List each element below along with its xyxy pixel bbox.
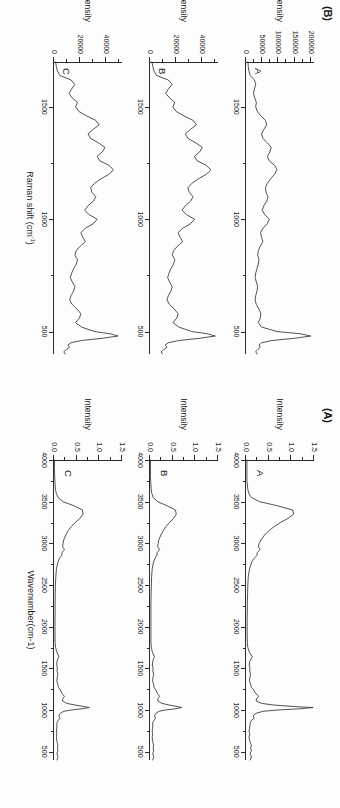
y-tick-label: 0.5 [265,442,272,452]
spectrum-curve-C [56,62,119,354]
x-tick-label: 1000 [41,702,48,718]
figure-stage: (B) 15001000500050000100000150000200000A… [0,0,340,808]
y-tick-label: 1.5 [311,442,318,452]
x-tick-label: 2500 [137,577,144,593]
x-tick-label: 500 [41,326,48,338]
y-tick-label: 1.5 [119,442,126,452]
spectrum-svg-A [244,62,314,354]
subplot-letter-C: C [61,68,72,75]
y-tick-label: 200000 [307,31,314,54]
y-axis-title: Intensity [179,0,189,22]
spectrum-svg-C [52,62,122,354]
spectrum-curve-B [150,460,181,760]
spectrum-svg-A [244,460,314,760]
y-tick-label: 0.5 [73,442,80,452]
x-tick-label: 1000 [233,702,240,718]
spectrum-curve-A [247,460,313,760]
y-tick-label: 40000 [199,35,206,54]
subplot-letter-A: A [253,68,264,74]
spectrum-curve-C [54,460,89,760]
x-tick-label: 500 [41,746,48,758]
x-axis-title: Raman shift (cm-1) [25,171,36,244]
y-tick-label: 20000 [77,35,84,54]
subplot-B: 40003500300025002000150010005000.00.51.0… [150,460,218,760]
y-tick-label: 1.0 [96,442,103,452]
x-tick-label: 1000 [137,702,144,718]
x-tick-label: 3000 [137,536,144,552]
figure-page: (B) 15001000500050000100000150000200000A… [0,0,340,808]
spectrum-svg-C [52,460,122,760]
subplot-C: 40003500300025002000150010005000.00.51.0… [54,460,122,760]
subplot-A: 40003500300025002000150010005000.00.51.0… [246,460,314,760]
x-tick-label: 1000 [233,211,240,227]
x-tick-label: 1000 [41,211,48,227]
y-axis-title: Intensity [83,398,93,430]
y-tick-label: 1.0 [192,442,199,452]
y-tick-label: 0.0 [243,442,250,452]
x-tick-label: 1000 [137,211,144,227]
x-tick-label: 1500 [137,661,144,677]
y-tick-label: 1.5 [215,442,222,452]
x-tick-label: 2000 [233,619,240,635]
x-tick-label: 500 [233,746,240,758]
x-tick-label: 500 [233,326,240,338]
x-tick-label: 1500 [41,99,48,115]
x-tick-label: 1500 [41,661,48,677]
x-tick-label: 2500 [41,577,48,593]
x-axis-title: Wavenumber(cm-1) [26,570,36,649]
x-tick-label: 4000 [41,452,48,468]
y-axis-title: Intensity [275,398,285,430]
y-tick-label: 150000 [291,31,298,54]
subplot-letter-B: B [159,470,170,476]
x-tick-label: 2000 [137,619,144,635]
x-tick-label: 1500 [233,99,240,115]
x-tick-label: 3500 [137,494,144,510]
subplot-letter-C: C [63,470,74,477]
y-tick-label: 0.0 [147,442,154,452]
x-tick-label: 4000 [137,452,144,468]
y-tick-label: 0.0 [51,442,58,452]
subplot-C: 1500100050002000040000CIntensity [54,62,122,354]
y-tick-label: 100000 [275,31,282,54]
y-tick-label: 0 [51,50,58,54]
spectrum-svg-B [148,62,218,354]
y-tick-label: 20000 [173,35,180,54]
y-axis-title: Intensity [179,398,189,430]
x-tick-label: 3500 [41,494,48,510]
x-tick-label: 500 [137,326,144,338]
subplot-B: 1500100050002000040000BIntensity [150,62,218,354]
panel-a-ftir: (A) 40003500300025002000150010005000.00.… [0,404,340,808]
y-tick-label: 50000 [259,35,266,54]
spectrum-curve-A [248,62,311,354]
y-axis-title: Intensity [83,0,93,22]
y-tick-label: 0.5 [169,442,176,452]
y-tick-label: 40000 [103,35,110,54]
spectrum-svg-B [148,460,218,760]
x-tick-label: 3000 [41,536,48,552]
subplot-letter-A: A [255,470,266,476]
x-tick-label: 1500 [233,661,240,677]
x-tick-label: 500 [137,746,144,758]
panel-b-raman: (B) 15001000500050000100000150000200000A… [0,0,340,404]
y-tick-label: 0 [147,50,154,54]
x-tick-label: 2500 [233,577,240,593]
x-tick-label: 3500 [233,494,240,510]
y-tick-label: 0 [243,50,250,54]
y-tick-label: 1.0 [288,442,295,452]
x-tick-label: 4000 [233,452,240,468]
x-tick-label: 1500 [137,99,144,115]
x-tick-label: 3000 [233,536,240,552]
y-axis-title: Intensity [275,0,285,22]
spectrum-curve-B [152,62,215,354]
x-tick-label: 2000 [41,619,48,635]
subplot-letter-B: B [157,68,168,74]
subplot-A: 15001000500050000100000150000200000AInte… [246,62,314,354]
